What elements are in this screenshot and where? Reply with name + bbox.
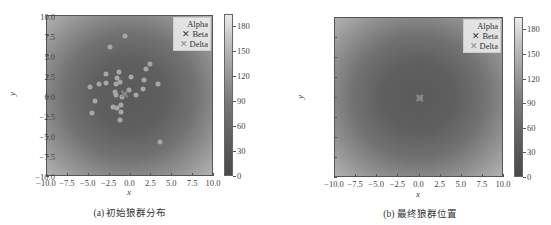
x-tick-label: −5.0 [369, 180, 384, 189]
legend-b: Alpha ✕Beta ✕Delta [463, 19, 501, 53]
colorbar-tick-label: 60 [527, 124, 536, 133]
y-tick-mark [334, 137, 337, 138]
plot-area-b: ✕✕✕ Alpha ✕Beta ✕Delta [334, 17, 503, 177]
y-tick-label: 5.0 [44, 53, 55, 62]
y-tick-mark [334, 177, 337, 178]
beta-x-marker-icon: ✕ [472, 31, 480, 41]
y-axis-label-b: y [295, 95, 305, 99]
colorbar-b [514, 17, 523, 177]
legend-item-beta: ✕Beta [467, 31, 498, 41]
legend-label-beta: Beta [482, 31, 498, 41]
delta-x-marker-icon: ✕ [415, 93, 424, 104]
y-tick-label: −10.0 [35, 173, 55, 182]
colorbar-tick-label: 90 [527, 99, 536, 108]
y-tick-label: 7.5 [44, 33, 55, 42]
colorbar-tick-mark [523, 103, 526, 104]
x-tick-label: 0.0 [413, 180, 424, 189]
y-tick-label: −5.0 [40, 133, 55, 142]
x-tick-mark [482, 174, 483, 177]
colorbar-tick-mark [523, 29, 526, 30]
x-tick-mark [355, 174, 356, 177]
x-tick-mark [419, 174, 420, 177]
y-tick-mark [334, 57, 337, 58]
y-tick-mark [334, 37, 337, 38]
x-tick-mark [440, 174, 441, 177]
x-tick-mark [397, 174, 398, 177]
x-tick-label: 2.5 [434, 180, 445, 189]
legend-item-delta: ✕Delta [467, 41, 498, 51]
y-tick-mark [334, 77, 337, 78]
x-tick-label: −10.0 [324, 180, 344, 189]
colorbar-tick-mark [523, 128, 526, 129]
colorbar-tick-label: 0 [527, 173, 531, 182]
y-tick-label: 0.0 [44, 93, 55, 102]
colorbar-tick-label: 30 [527, 148, 536, 157]
y-tick-label: 2.5 [44, 73, 55, 82]
colorbar-tick-mark [523, 152, 526, 153]
x-tick-mark [461, 174, 462, 177]
y-tick-label: 10.0 [40, 13, 55, 22]
x-tick-label: −2.5 [390, 180, 405, 189]
caption-b: (b) 最终狼群位置 [383, 206, 456, 220]
x-tick-label: 7.5 [477, 180, 488, 189]
y-tick-label: −7.5 [40, 153, 55, 162]
delta-x-marker-icon: ✕ [470, 41, 478, 51]
legend-item-alpha: Alpha [467, 21, 498, 31]
y-tick-label: −2.5 [40, 113, 55, 122]
x-tick-mark [503, 174, 504, 177]
colorbar-tick-label: 180 [527, 25, 540, 34]
legend-label-alpha: Alpha [477, 21, 498, 31]
y-tick-mark [334, 97, 337, 98]
y-tick-mark [334, 117, 337, 118]
x-tick-label: −7.5 [347, 180, 362, 189]
colorbar-tick-mark [523, 79, 526, 80]
x-axis-label-b: x [416, 189, 420, 199]
colorbar-tick-label: 150 [527, 50, 540, 59]
x-tick-label: 10.0 [496, 180, 511, 189]
x-tick-label: 5.0 [455, 180, 466, 189]
legend-label-delta: Delta [480, 41, 498, 51]
colorbar-tick-label: 120 [527, 74, 540, 83]
y-tick-mark [334, 17, 337, 18]
colorbar-tick-mark [523, 177, 526, 178]
colorbar-tick-mark [523, 54, 526, 55]
panel-b: ✕✕✕ Alpha ✕Beta ✕Delta −10.0−7.5−5.0−2.5… [0, 0, 275, 225]
y-tick-mark [334, 157, 337, 158]
x-tick-mark [376, 174, 377, 177]
